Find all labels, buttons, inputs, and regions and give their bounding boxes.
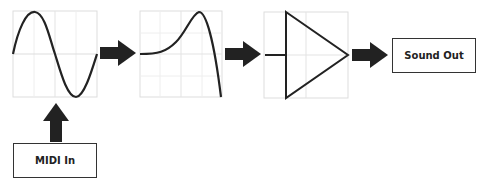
sound-out-label: Sound Out [404, 50, 463, 61]
amplifier-panel [264, 12, 348, 98]
oscillator-panel [13, 11, 97, 97]
midi-in-box: MIDI In [13, 143, 97, 178]
arrow-right-icon [225, 41, 261, 67]
midi-in-label: MIDI In [35, 155, 75, 166]
sound-out-box: Sound Out [392, 38, 476, 73]
arrow-up-icon [43, 103, 69, 142]
waveshaper-panel [140, 11, 222, 97]
arrow-right-icon [352, 42, 388, 68]
arrow-right-icon [100, 40, 136, 66]
